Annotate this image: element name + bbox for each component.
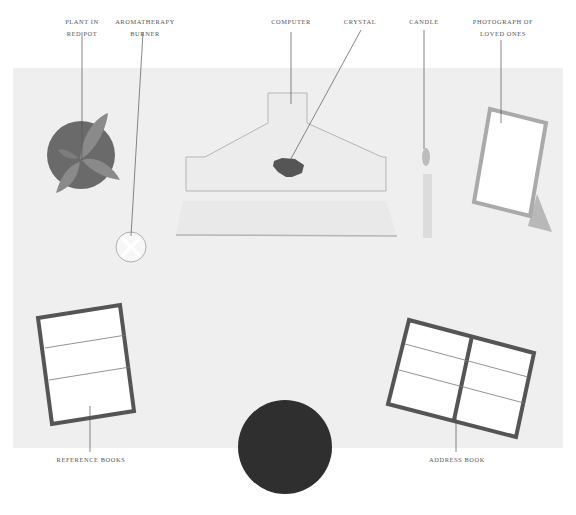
label-line: CANDLE: [396, 16, 452, 28]
label-line: COMPUTER: [261, 16, 321, 28]
label-line: REFERENCE BOOKS: [45, 454, 137, 466]
chair: [238, 400, 332, 494]
reference-books: [38, 305, 134, 424]
aromatherapy-burner: [116, 232, 146, 262]
label-line: BURNER: [110, 28, 180, 40]
label-crystal: CRYSTAL: [332, 16, 388, 28]
label-line: LOVED ONES: [460, 28, 546, 40]
desk-illustration: [0, 0, 576, 515]
label-computer: COMPUTER: [261, 16, 321, 28]
label-line: CRYSTAL: [332, 16, 388, 28]
label-line: ADDRESS BOOK: [420, 454, 494, 466]
label-reference-books: REFERENCE BOOKS: [45, 454, 137, 466]
label-plant-in-red-pot: PLANT IN RED POT: [52, 16, 112, 40]
label-line: RED POT: [52, 28, 112, 40]
label-line: PHOTOGRAPH OF: [460, 16, 546, 28]
label-address-book: ADDRESS BOOK: [420, 454, 494, 466]
label-aromatherapy-burner: AROMATHERAPY BURNER: [110, 16, 180, 40]
label-line: AROMATHERAPY: [110, 16, 180, 28]
label-line: PLANT IN: [52, 16, 112, 28]
label-candle: CANDLE: [396, 16, 452, 28]
desk-diagram: PLANT IN RED POT AROMATHERAPY BURNER COM…: [0, 0, 576, 515]
label-photograph-of-loved-ones: PHOTOGRAPH OF LOVED ONES: [460, 16, 546, 40]
keyboard: [176, 201, 397, 236]
